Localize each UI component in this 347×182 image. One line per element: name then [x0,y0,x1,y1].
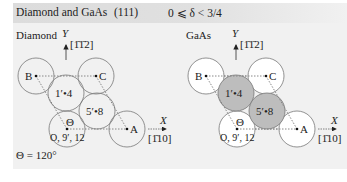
atom-c-label: C [99,71,106,82]
diagram-title-gaas: GaAs [186,30,211,41]
atom-a-label: A [130,124,138,135]
atom-1prime-label: 1′•4 [55,88,72,99]
y-axis-label: Y [232,28,238,39]
origin-label: O, 9′, 12 [220,133,254,143]
atom-b-label: B [25,71,32,82]
theta-label: Θ [66,117,74,128]
theta-label: Θ [236,117,244,128]
x-axis-label: X [160,115,167,126]
atom-a-label: A [300,124,308,135]
atom-5prime-label: 5′•8 [86,106,103,117]
x-direction-label: [1̄10] [318,133,341,144]
theta-value: Θ = 120° [16,149,57,161]
origin-label: O, 9′, 12 [50,133,84,143]
y-direction-label: [1̄1̄2] [240,39,263,50]
atom-b-label: B [195,71,202,82]
x-direction-label: [1̄10] [148,133,171,144]
diamond-diagram [18,45,166,147]
gaas-diagram [188,45,336,147]
atom-c-label: C [269,71,276,82]
x-axis-label: X [331,115,338,126]
y-direction-label: [1̄1̄2] [70,39,93,50]
atom-1prime-label: 1′•4 [225,88,242,99]
atom-5prime-label: 5′•8 [256,106,273,117]
y-axis-label: Y [62,28,68,39]
diagram-title-diamond: Diamond [16,30,57,41]
